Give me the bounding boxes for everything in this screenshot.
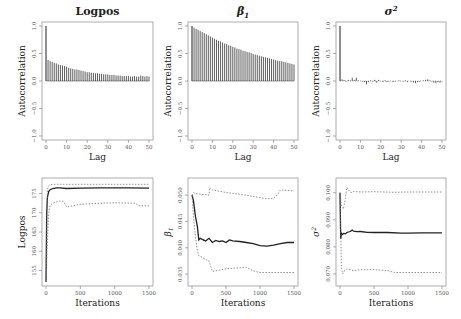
trace-line-lower xyxy=(192,195,294,272)
y-tick-label: −0.5 xyxy=(177,101,183,115)
x-tick-label: 1500 xyxy=(142,290,156,296)
x-tick-label: 500 xyxy=(75,290,86,296)
y-tick-label: 0.0 xyxy=(177,76,183,85)
y-tick-label: 160 xyxy=(31,245,37,256)
y-tick-label: −0.5 xyxy=(31,101,37,115)
y-axis-label: Logpos xyxy=(17,215,27,248)
y-tick-label: 1.0 xyxy=(325,21,331,30)
x-tick-label: 30 xyxy=(250,144,257,150)
x-axis-label: Lag xyxy=(234,152,251,162)
acf-panel-0: 01020304050−1.0−0.50.00.51.0LagAutocorre… xyxy=(17,5,153,162)
y-tick-label: −0.5 xyxy=(325,101,331,115)
x-tick-label: 1000 xyxy=(401,290,415,296)
y-tick-label: 0.050 xyxy=(177,187,183,203)
acf-panel-1: 01020304050−1.0−0.50.00.51.0LagAutocorre… xyxy=(163,5,298,162)
y-tick-label: 0.0 xyxy=(325,76,331,85)
y-tick-label: 0.0 xyxy=(31,76,37,85)
x-tick-label: 0 xyxy=(44,144,48,150)
trace-line-upper xyxy=(340,187,442,209)
y-tick-label: 155 xyxy=(31,265,37,276)
x-tick-label: 50 xyxy=(146,144,153,150)
y-axis-label: Autocorrelation xyxy=(163,45,173,118)
x-tick-label: 30 xyxy=(398,144,405,150)
acf-panel-2: 01020304050−1.0−0.50.00.51.0LagAutocorre… xyxy=(311,4,446,162)
x-tick-label: 1000 xyxy=(108,290,122,296)
y-tick-label: 0.080 xyxy=(325,238,331,254)
y-tick-label: −1.0 xyxy=(325,129,331,143)
x-tick-label: 20 xyxy=(229,144,236,150)
trace-panel-5: 0500100015000.0700.0800.0900.100Iteratio… xyxy=(310,178,449,308)
y-axis-label: Autocorrelation xyxy=(311,45,321,118)
trace-line-mean xyxy=(46,188,149,282)
y-tick-label: 0.070 xyxy=(325,266,331,282)
trace-line-mean xyxy=(192,195,294,246)
x-tick-label: 0 xyxy=(338,290,342,296)
y-axis-label: β1 xyxy=(163,227,174,237)
y-tick-label: 1.0 xyxy=(177,21,183,30)
y-tick-label: 0.5 xyxy=(177,49,183,58)
trace-line-mean xyxy=(340,193,442,239)
x-tick-label: 40 xyxy=(270,144,277,150)
x-tick-label: 40 xyxy=(125,144,132,150)
x-tick-label: 10 xyxy=(209,144,216,150)
y-tick-label: 0.100 xyxy=(325,184,331,200)
y-tick-label: 0.045 xyxy=(177,213,183,229)
y-tick-label: 0.5 xyxy=(325,49,331,58)
y-tick-label: 170 xyxy=(31,207,37,218)
x-tick-label: 500 xyxy=(369,290,380,296)
y-tick-label: 175 xyxy=(31,188,37,199)
x-tick-label: 10 xyxy=(357,144,364,150)
x-tick-label: 1000 xyxy=(253,290,267,296)
plot-frame xyxy=(188,178,298,286)
x-tick-label: 50 xyxy=(439,144,446,150)
x-tick-label: 1500 xyxy=(287,290,301,296)
x-tick-label: 0 xyxy=(44,290,48,296)
trace-panel-3: 050010001500155160165170175IterationsLog… xyxy=(17,178,156,308)
trace-line-lower xyxy=(46,201,149,282)
y-axis-label: Autocorrelation xyxy=(17,45,27,118)
y-tick-label: 0.090 xyxy=(325,211,331,227)
x-axis-label: Iterations xyxy=(221,298,266,308)
x-tick-label: 30 xyxy=(104,144,111,150)
trace-line-upper xyxy=(192,187,294,199)
x-tick-label: 40 xyxy=(418,144,425,150)
x-axis-label: Iterations xyxy=(75,298,120,308)
y-tick-label: 0.040 xyxy=(177,239,183,255)
x-tick-label: 20 xyxy=(84,144,91,150)
y-tick-label: 0.5 xyxy=(31,49,37,58)
trace-line-upper xyxy=(46,184,149,282)
x-tick-label: 500 xyxy=(221,290,232,296)
x-tick-label: 20 xyxy=(377,144,384,150)
y-tick-label: −1.0 xyxy=(177,129,183,143)
x-axis-label: Iterations xyxy=(369,298,414,308)
plot-frame xyxy=(42,178,153,286)
y-tick-label: 0.035 xyxy=(177,266,183,282)
x-tick-label: 0 xyxy=(190,144,194,150)
x-axis-label: Lag xyxy=(382,152,399,162)
x-tick-label: 50 xyxy=(291,144,298,150)
panel-title: β1 xyxy=(236,5,249,20)
panel-title: Logpos xyxy=(76,5,120,18)
y-axis-label: σ2 xyxy=(310,227,321,237)
x-tick-label: 1500 xyxy=(435,290,449,296)
figure: 01020304050−1.0−0.50.00.51.0LagAutocorre… xyxy=(0,0,461,319)
trace-panel-4: 0500100015000.0350.0400.0450.050Iteratio… xyxy=(163,178,301,308)
x-tick-label: 10 xyxy=(63,144,70,150)
y-tick-label: −1.0 xyxy=(31,129,37,143)
panel-title: σ2 xyxy=(385,4,398,18)
y-tick-label: 1.0 xyxy=(31,21,37,30)
y-tick-label: 165 xyxy=(31,226,37,237)
x-tick-label: 0 xyxy=(190,290,194,296)
x-tick-label: 0 xyxy=(338,144,342,150)
x-axis-label: Lag xyxy=(89,152,106,162)
